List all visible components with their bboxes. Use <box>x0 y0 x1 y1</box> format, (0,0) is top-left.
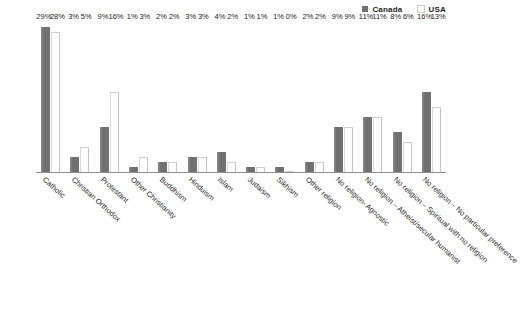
bar-canada[interactable]: 2% <box>158 162 167 172</box>
bar-group: 29%28% <box>41 22 61 172</box>
bar-slot: 3% <box>188 22 197 172</box>
plot-area: 29%28%3%5%9%16%1%3%2%2%3%3%4%2%1%1%1%0%2… <box>36 22 446 172</box>
bar-value-label: 1% <box>244 12 255 21</box>
bar-slot: 28% <box>51 22 60 172</box>
bar-group: 9%16% <box>99 22 119 172</box>
bar-usa[interactable]: 9% <box>344 127 353 172</box>
bar-value-label: 9% <box>97 12 108 21</box>
bar-value-label: 16% <box>108 12 123 21</box>
bar-slot: 6% <box>403 22 412 172</box>
bar-slot: 13% <box>432 22 441 172</box>
bar-group: 2%2% <box>304 22 324 172</box>
bar-value-label: 9% <box>332 12 343 21</box>
x-tick-label: Judaism <box>246 175 273 200</box>
bar-slot: 11% <box>363 22 372 172</box>
bar-slot: 29% <box>41 22 50 172</box>
bar-usa[interactable]: 28% <box>51 32 60 172</box>
bar-canada[interactable]: 29% <box>41 27 50 172</box>
bar-value-label: 2% <box>169 12 180 21</box>
bar-value-label: 9% <box>344 12 355 21</box>
x-tick-label: Christian Orthodox <box>70 175 122 224</box>
bar-canada[interactable]: 4% <box>217 152 226 172</box>
bar-value-label: 28% <box>50 12 65 21</box>
bar-group: 3%5% <box>70 22 90 172</box>
bar-value-label: 2% <box>315 12 326 21</box>
bar-group: 4%2% <box>216 22 236 172</box>
bar-canada[interactable]: 3% <box>70 157 79 172</box>
bar-slot: 3% <box>70 22 79 172</box>
bar-slot: 3% <box>198 22 207 172</box>
bar-slot: 0% <box>285 22 294 172</box>
bar-canada[interactable]: 2% <box>305 162 314 172</box>
bar-canada[interactable]: 3% <box>188 157 197 172</box>
bar-canada[interactable]: 9% <box>100 127 109 172</box>
bar-canada[interactable]: 11% <box>363 117 372 172</box>
bar-slot: 1% <box>275 22 284 172</box>
bar-value-label: 1% <box>127 12 138 21</box>
bar-canada[interactable]: 16% <box>422 92 431 172</box>
bar-usa[interactable]: 13% <box>432 107 441 172</box>
bar-slot: 5% <box>80 22 89 172</box>
bar-slot: 9% <box>334 22 343 172</box>
x-axis-tick-labels: CatholicChristian OrthodoxProtestantOthe… <box>36 173 446 323</box>
bar-value-label: 3% <box>198 12 209 21</box>
bar-canada[interactable]: 9% <box>334 127 343 172</box>
bar-slot: 9% <box>344 22 353 172</box>
bar-value-label: 6% <box>403 12 414 21</box>
bar-group: 2%2% <box>158 22 178 172</box>
bar-usa[interactable]: 5% <box>80 147 89 172</box>
bar-value-label: 2% <box>227 12 238 21</box>
bar-value-label: 1% <box>257 12 268 21</box>
bar-usa[interactable]: 11% <box>373 117 382 172</box>
x-tick-label: Catholic <box>41 175 67 200</box>
bar-slot: 1% <box>129 22 138 172</box>
bar-slot: 1% <box>246 22 255 172</box>
bar-value-label: 2% <box>156 12 167 21</box>
x-tick-label: Sikhism <box>275 175 301 199</box>
bar-value-label: 3% <box>139 12 150 21</box>
bar-usa[interactable]: 2% <box>227 162 236 172</box>
bar-usa[interactable]: 6% <box>403 142 412 172</box>
x-tick-label: No religion- Agnostic <box>333 175 390 228</box>
bar-value-label: 3% <box>68 12 79 21</box>
bar-group: 9%9% <box>334 22 354 172</box>
bar-usa[interactable]: 2% <box>315 162 324 172</box>
bar-group: 1%1% <box>246 22 266 172</box>
bar-value-label: 4% <box>215 12 226 21</box>
bar-value-label: 13% <box>431 12 446 21</box>
bar-value-label: 3% <box>185 12 196 21</box>
bar-slot: 1% <box>256 22 265 172</box>
bar-slot: 8% <box>393 22 402 172</box>
bar-value-label: 5% <box>81 12 92 21</box>
bar-slot: 16% <box>110 22 119 172</box>
bar-slot: 11% <box>373 22 382 172</box>
bar-slot: 3% <box>139 22 148 172</box>
bar-usa[interactable]: 3% <box>139 157 148 172</box>
bar-value-label: 11% <box>372 12 386 21</box>
bar-slot: 2% <box>305 22 314 172</box>
bar-value-label: 11% <box>359 12 373 21</box>
bar-slot: 2% <box>227 22 236 172</box>
bar-usa[interactable]: 2% <box>168 162 177 172</box>
bar-usa[interactable]: 16% <box>110 92 119 172</box>
bar-group: 11%11% <box>363 22 383 172</box>
bar-canada[interactable]: 8% <box>393 132 402 172</box>
bar-value-label: 8% <box>390 12 401 21</box>
bar-slot: 2% <box>168 22 177 172</box>
bar-slot: 4% <box>217 22 226 172</box>
bar-value-label: 2% <box>302 12 313 21</box>
bar-slot: 2% <box>158 22 167 172</box>
bar-group: 16%13% <box>421 22 441 172</box>
bar-group: 8%6% <box>392 22 412 172</box>
bar-group: 1%3% <box>129 22 149 172</box>
bar-group: 1%0% <box>275 22 295 172</box>
bar-value-label: 0% <box>286 12 297 21</box>
bar-slot: 2% <box>315 22 324 172</box>
bar-group: 3%3% <box>187 22 207 172</box>
bar-usa[interactable]: 3% <box>198 157 207 172</box>
bar-slot: 16% <box>422 22 431 172</box>
x-tick-label: Hinduism <box>187 175 216 203</box>
x-tick-label: Islam <box>216 175 235 194</box>
bar-slot: 9% <box>100 22 109 172</box>
